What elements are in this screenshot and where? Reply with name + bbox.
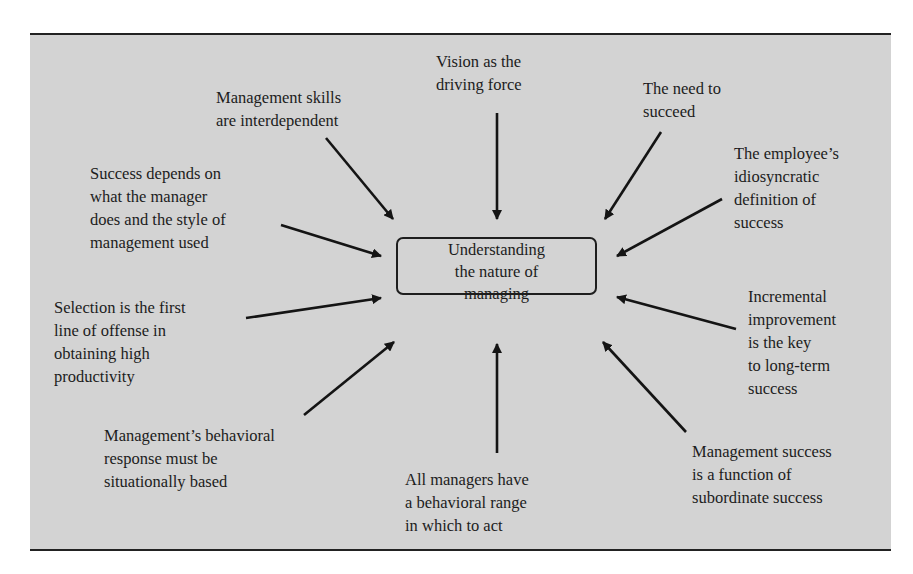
arrow-need-to-succeed [605,132,661,219]
arrows-layer [0,0,913,574]
arrow-situational-response [304,342,394,415]
arrow-selection [246,298,381,318]
arrow-incremental-improvement [617,297,736,329]
arrow-success-depends [281,225,381,256]
arrow-employee-definition [617,199,722,256]
arrow-skills-interdependent [326,138,393,219]
arrow-subordinate-success [603,342,686,432]
